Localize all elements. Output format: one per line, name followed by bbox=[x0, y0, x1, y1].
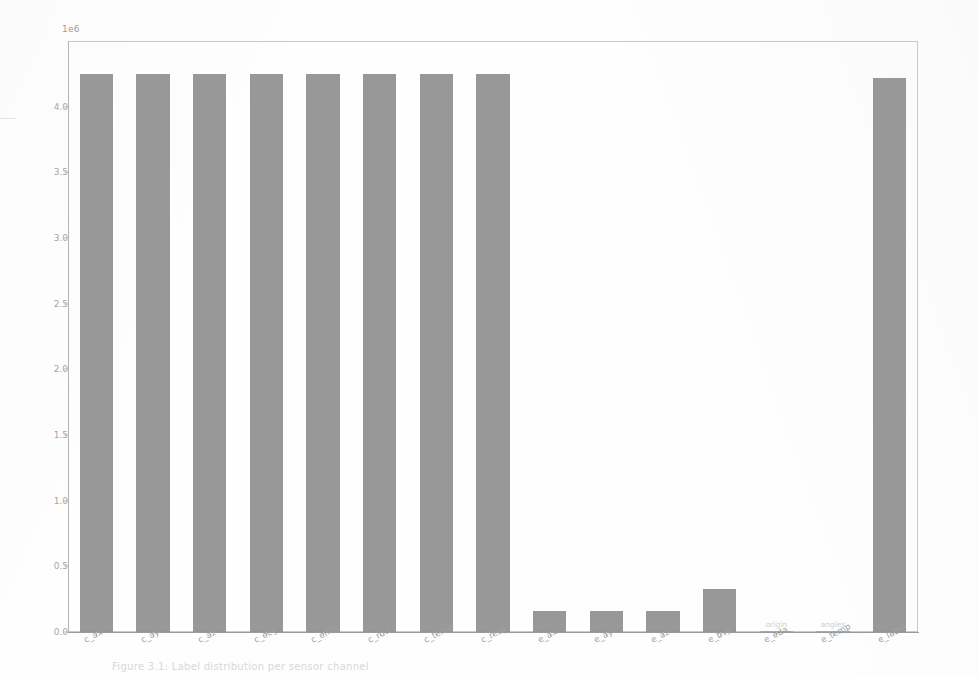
y-axis-tick-label: 1.5 bbox=[28, 430, 68, 440]
y-axis-tick-label: 2.5 bbox=[28, 299, 68, 309]
bar bbox=[873, 78, 906, 632]
bar bbox=[476, 74, 509, 632]
y-axis-tick-label: 3.5 bbox=[28, 167, 68, 177]
bars-container: originangles bbox=[68, 41, 918, 632]
bar bbox=[363, 74, 396, 632]
bar bbox=[250, 74, 283, 632]
bar bbox=[193, 74, 226, 632]
bar bbox=[306, 74, 339, 632]
y-axis-tick-label: 3.0 bbox=[28, 233, 68, 243]
y-axis-tick-label: 0.5 bbox=[28, 561, 68, 571]
bar bbox=[136, 74, 169, 632]
bar-chart-figure: 1e6 0.00.51.01.52.02.53.03.54.0 originan… bbox=[0, 0, 978, 677]
y-axis-tick-label: 4.0 bbox=[28, 102, 68, 112]
bar bbox=[703, 589, 736, 632]
bar bbox=[420, 74, 453, 632]
bar bbox=[80, 74, 113, 632]
y-axis-tick-label: 1.0 bbox=[28, 496, 68, 506]
y-axis-tick-label: 0.0 bbox=[28, 627, 68, 637]
y-axis-tick-layer: 0.00.51.01.52.02.53.03.54.0 bbox=[0, 0, 68, 677]
figure-caption: Figure 3.1: Label distribution per senso… bbox=[112, 661, 369, 675]
y-axis-tick-label: 2.0 bbox=[28, 364, 68, 374]
